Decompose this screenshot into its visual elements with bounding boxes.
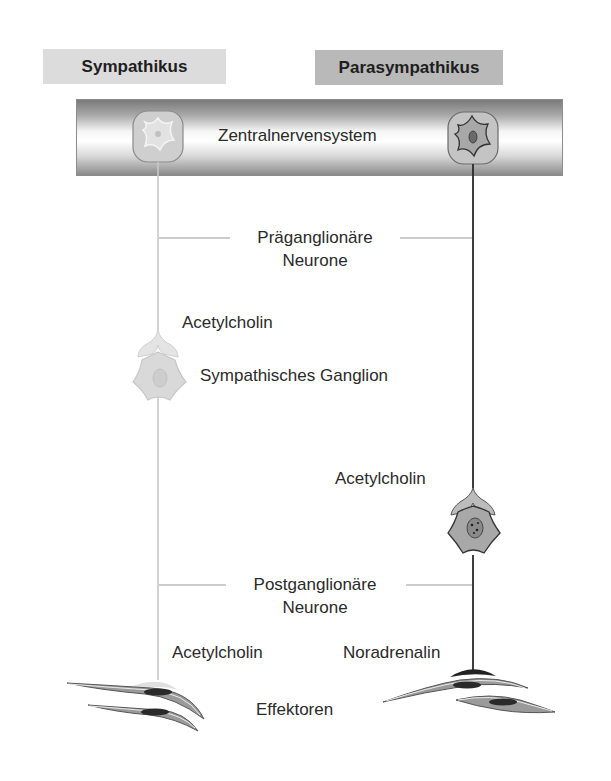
parasympathetic-cns-neuron-icon <box>448 112 498 164</box>
sympathetic-cns-neuron-icon <box>133 111 183 162</box>
sympathetic-ganglion-label: Sympathisches Ganglion <box>200 366 388 386</box>
sympathetic-ganglion-icon <box>133 330 186 400</box>
sympathetic-effector-cells-icon <box>67 682 204 731</box>
postganglionic-label-line2: Neurone <box>228 596 402 619</box>
preganglionic-label-line2: Neurone <box>234 249 396 272</box>
diagram-drawing <box>0 0 611 781</box>
effectors-label: Effektoren <box>256 700 333 720</box>
postganglionic-label-line1: Postganglionäre <box>228 573 402 596</box>
preganglionic-neurons-label: Präganglionäre Neurone <box>234 226 396 272</box>
sympathetic-effector-transmitter-label: Acetylcholin <box>172 643 263 663</box>
preganglionic-label-line1: Präganglionäre <box>234 226 396 249</box>
cns-label: Zentralnervensystem <box>218 126 377 146</box>
parasympathetic-effector-transmitter-label: Noradrenalin <box>343 643 440 663</box>
postganglionic-neurons-label: Postganglionäre Neurone <box>228 573 402 619</box>
sympathetic-ganglion-transmitter-label: Acetylcholin <box>182 313 273 333</box>
parasympathetic-ganglion-icon <box>448 488 500 553</box>
parasympathetic-ganglion-transmitter-label: Acetylcholin <box>335 469 426 489</box>
parasympathetic-effector-cells-icon <box>383 669 555 712</box>
